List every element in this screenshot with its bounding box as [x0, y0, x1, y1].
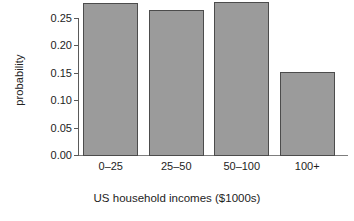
y-tick-mark: [74, 45, 79, 46]
bar: [149, 10, 204, 156]
x-axis-title: US household incomes ($1000s): [0, 192, 354, 204]
x-axis-tick-labels: 0–2525–5050–100100+: [78, 160, 340, 176]
y-tick-mark: [74, 18, 79, 19]
y-tick-mark: [74, 100, 79, 101]
x-tick-label: 0–25: [99, 160, 123, 172]
y-axis-line: [78, 18, 79, 156]
x-tick-label: 25–50: [161, 160, 192, 172]
y-tick-label: 0.20: [51, 40, 72, 51]
y-tick-label: 0.25: [51, 13, 72, 24]
bar: [214, 2, 269, 156]
y-tick-mark: [74, 155, 79, 156]
bar-chart-figure: probability 0.000.050.100.150.200.25 0–2…: [0, 0, 354, 221]
y-tick-label: 0.00: [51, 150, 72, 161]
y-tick-label: 0.15: [51, 68, 72, 79]
y-axis-title-text: probability: [13, 54, 25, 105]
y-axis-tick-labels: 0.000.050.100.150.200.25: [30, 0, 76, 170]
bar: [280, 72, 335, 156]
y-tick-label: 0.05: [51, 123, 72, 134]
x-tick-label: 50–100: [223, 160, 260, 172]
y-tick-label: 0.10: [51, 95, 72, 106]
y-tick-mark: [74, 73, 79, 74]
x-tick-label: 100+: [295, 160, 320, 172]
plot-area: [78, 4, 340, 156]
bar: [83, 3, 138, 156]
y-tick-mark: [74, 128, 79, 129]
y-axis-title: probability: [8, 0, 30, 160]
